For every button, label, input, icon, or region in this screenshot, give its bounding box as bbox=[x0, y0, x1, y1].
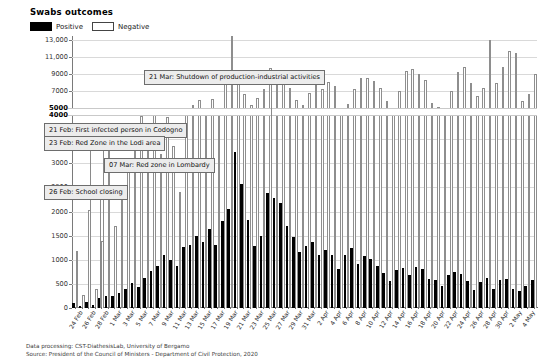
x-tick-label: 4 Apr bbox=[328, 309, 342, 326]
annotation-leader-a5 bbox=[100, 199, 101, 308]
bar-negative bbox=[95, 289, 98, 308]
x-tick-mark bbox=[275, 307, 276, 309]
annotation-a4: 07 Mar: Red zone in Lombardy bbox=[104, 158, 215, 173]
x-tick-mark bbox=[418, 307, 419, 309]
x-tick-mark bbox=[159, 307, 160, 309]
x-tick-mark bbox=[476, 307, 477, 309]
annotation-a5: 26 Feb: School closing bbox=[44, 185, 128, 200]
bar-negative bbox=[515, 53, 518, 308]
x-tick-mark bbox=[463, 307, 464, 309]
x-tick-mark bbox=[443, 307, 444, 309]
bar-negative bbox=[243, 94, 246, 308]
x-tick-mark bbox=[82, 307, 83, 309]
x-tick-mark bbox=[237, 307, 238, 309]
annotation-leader-a4 bbox=[147, 172, 148, 308]
axis-break-line-top bbox=[68, 108, 537, 109]
bar-negative bbox=[347, 104, 350, 308]
x-tick-mark bbox=[269, 307, 270, 309]
bar-negative bbox=[237, 70, 240, 308]
x-tick-mark bbox=[224, 307, 225, 309]
x-tick-mark bbox=[179, 307, 180, 309]
x-tick-mark bbox=[372, 307, 373, 309]
x-tick-mark bbox=[450, 307, 451, 309]
bar-negative bbox=[502, 67, 505, 309]
y-tick-label: 3000 bbox=[51, 159, 68, 167]
x-tick-mark bbox=[430, 307, 431, 309]
x-tick-mark bbox=[385, 307, 386, 309]
y-tick-label: 7000 bbox=[51, 87, 68, 95]
x-tick-mark bbox=[521, 307, 522, 309]
bar-negative bbox=[121, 192, 124, 308]
x-tick-mark bbox=[489, 307, 490, 309]
y-tick-label: 1500 bbox=[51, 232, 68, 240]
bar-negative bbox=[444, 114, 447, 308]
x-tick-mark bbox=[301, 307, 302, 309]
x-tick-mark bbox=[204, 307, 205, 309]
y-tick-label: 0 bbox=[64, 304, 68, 312]
x-tick-mark bbox=[469, 307, 470, 309]
x-tick-mark bbox=[133, 307, 134, 309]
x-tick-mark bbox=[243, 307, 244, 309]
x-tick-mark bbox=[321, 307, 322, 309]
x-tick-mark bbox=[482, 307, 483, 309]
x-tick-mark bbox=[411, 307, 412, 309]
bar-negative bbox=[508, 51, 511, 308]
x-tick-mark bbox=[211, 307, 212, 309]
bar-negative bbox=[482, 88, 485, 308]
x-tick-mark bbox=[217, 307, 218, 309]
x-tick-mark bbox=[379, 307, 380, 309]
bar-negative bbox=[205, 108, 208, 308]
x-tick-mark bbox=[353, 307, 354, 309]
x-tick-mark bbox=[508, 307, 509, 309]
bar-negative bbox=[340, 109, 343, 308]
x-tick-mark bbox=[75, 307, 76, 309]
bar-negative bbox=[476, 96, 479, 308]
x-tick-mark bbox=[308, 307, 309, 309]
x-tick-mark bbox=[127, 307, 128, 309]
annotation-a1: 21 Mar: Shutdown of production-industria… bbox=[144, 70, 325, 85]
bar-negative bbox=[437, 107, 440, 308]
x-tick-mark bbox=[398, 307, 399, 309]
bar-negative bbox=[392, 110, 395, 308]
x-tick-label: 1 Mar bbox=[108, 309, 123, 327]
x-tick-mark bbox=[366, 307, 367, 309]
chart-footer: Data processing: CST-DiathesisLab, Unive… bbox=[26, 343, 258, 358]
bar-negative bbox=[528, 94, 531, 308]
bar-negative bbox=[295, 100, 298, 308]
bar-negative bbox=[463, 67, 466, 309]
x-tick-mark bbox=[534, 307, 535, 309]
bar-negative bbox=[489, 40, 492, 308]
y-tick-label: 1000 bbox=[51, 256, 68, 264]
annotation-leader-a3 bbox=[103, 150, 104, 308]
x-tick-mark bbox=[250, 307, 251, 309]
axis-break-line-bottom bbox=[68, 115, 537, 116]
chart-legend: Positive Negative bbox=[30, 21, 154, 32]
y-tick-label: 9000 bbox=[51, 70, 68, 78]
x-tick-mark bbox=[263, 307, 264, 309]
bar-negative bbox=[302, 105, 305, 308]
x-tick-mark bbox=[101, 307, 102, 309]
bar-negative bbox=[108, 151, 111, 308]
bar-negative bbox=[256, 98, 259, 308]
x-tick-mark bbox=[327, 307, 328, 309]
bar-negative bbox=[250, 105, 253, 308]
bar-negative bbox=[289, 88, 292, 308]
bar-negative bbox=[405, 71, 408, 308]
x-tick-mark bbox=[514, 307, 515, 309]
x-tick-mark bbox=[191, 307, 192, 309]
bar-negative bbox=[379, 88, 382, 308]
x-tick-mark bbox=[334, 307, 335, 309]
legend-swatch-positive bbox=[30, 22, 52, 31]
bar-negative bbox=[521, 101, 524, 308]
y-tick-label: 2000 bbox=[51, 208, 68, 216]
bar-negative bbox=[321, 89, 324, 308]
chart-canvas: Swabs outcomes Positive Negative 0500100… bbox=[0, 0, 554, 363]
bar-negative bbox=[411, 69, 414, 308]
bar-negative bbox=[308, 93, 311, 308]
chart-title: Swabs outcomes bbox=[30, 7, 113, 17]
bar-negative bbox=[218, 111, 221, 308]
bar-negative bbox=[211, 99, 214, 308]
bar-negative bbox=[198, 100, 201, 308]
bar-negative bbox=[353, 89, 356, 308]
y-tick-label: 13,000 bbox=[45, 36, 68, 44]
